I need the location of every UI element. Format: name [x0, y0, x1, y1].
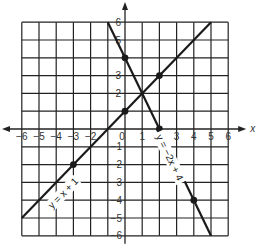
x-axis-left-arrow-icon — [2, 126, 10, 132]
plotted-point — [190, 197, 197, 204]
x-tick-label: 3 — [174, 131, 180, 142]
x-tick-label: 5 — [208, 131, 214, 142]
x-tick-label: 6 — [225, 131, 231, 142]
y-tick-label: 2 — [115, 88, 121, 99]
y-tick-label: −1 — [111, 141, 123, 152]
plotted-point — [122, 54, 129, 61]
x-tick-label: −5 — [33, 131, 45, 142]
x-tick-label: 4 — [191, 131, 197, 142]
x-tick-label: −4 — [50, 131, 62, 142]
y-axis-up-arrow-icon — [122, 2, 128, 10]
y-tick-label: −2 — [111, 159, 123, 170]
x-tick-label: 1 — [139, 131, 145, 142]
x-tick-label: −3 — [68, 131, 80, 142]
x-tick-label: −6 — [16, 131, 28, 142]
plotted-point — [122, 108, 129, 115]
line-y-equals-x-plus-1 — [22, 22, 211, 218]
y-tick-label: 6 — [115, 17, 121, 28]
y-tick-label: −3 — [111, 177, 123, 188]
y-tick-label: −6 — [111, 230, 123, 241]
x-axis-right-arrow-icon — [238, 126, 246, 132]
x-tick-label: −2 — [85, 131, 97, 142]
equation-label-line-2: y = −2x + 4 — [154, 133, 186, 183]
y-tick-label: −5 — [111, 213, 123, 224]
coordinate-graph: x−6−5−4−3−201234566532−1−2−3−4−5−6y = x … — [0, 0, 259, 246]
equation-label-line-1: y = x + 1 — [46, 175, 81, 211]
y-tick-label: −4 — [111, 195, 123, 206]
y-tick-label: 3 — [115, 70, 121, 81]
plotted-point — [156, 72, 163, 79]
x-axis-label: x — [249, 123, 256, 134]
plotted-point — [70, 161, 77, 168]
